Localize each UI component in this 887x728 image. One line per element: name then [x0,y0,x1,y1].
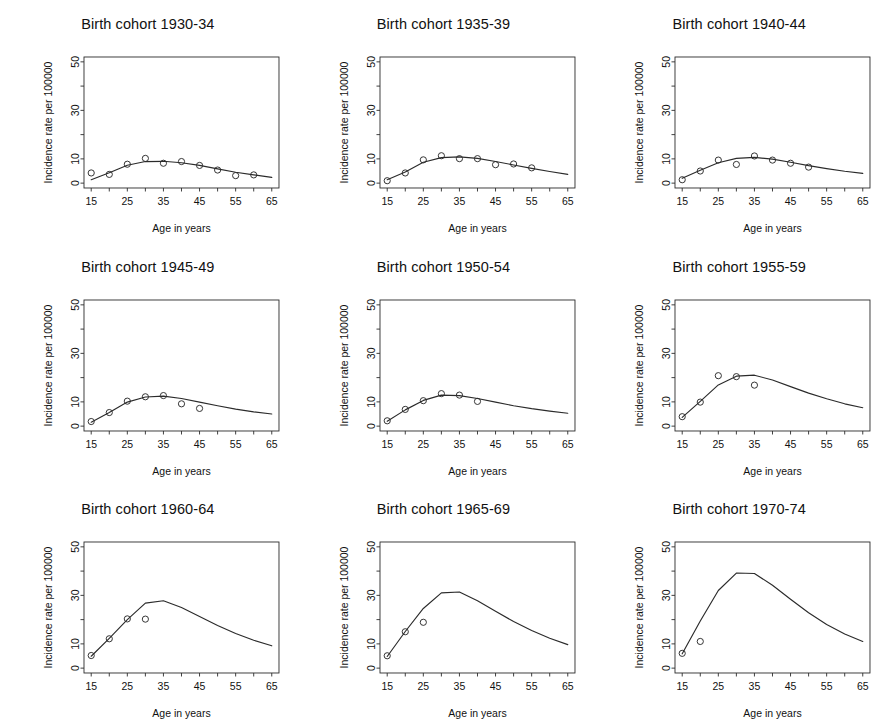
y-axis-tick-label: 10 [365,638,376,650]
x-axis-tick-label: 25 [417,439,429,450]
y-axis-tick-label: 0 [365,423,376,429]
y-axis-title: Incidence rate per 100000 [634,304,645,426]
x-axis-title: Age in years [744,466,802,477]
x-axis-tick-label: 35 [158,681,170,692]
chart-panel: Birth cohort 1935-391525354555650103050A… [296,0,592,243]
y-axis-tick-label: 50 [661,541,672,553]
fitted-curve [683,157,864,178]
x-axis-tick-label: 45 [785,196,797,207]
y-axis-title: Incidence rate per 100000 [634,547,645,669]
x-axis-tick-label: 15 [85,681,97,692]
plot-frame [380,57,575,188]
y-axis-title: Incidence rate per 100000 [634,61,645,183]
plot-area: 1525354555650103050Age in yearsIncidence… [591,0,887,243]
y-axis-tick-label: 0 [661,665,672,671]
x-axis-tick-label: 15 [677,439,689,450]
data-point [770,157,776,163]
data-point [716,372,722,378]
chart-panel: Birth cohort 1940-441525354555650103050A… [591,0,887,243]
x-axis-tick-label: 45 [489,439,501,450]
fitted-curve [91,396,272,422]
plot-frame [675,542,870,673]
x-axis-tick-label: 55 [230,439,242,450]
x-axis-tick-label: 45 [785,439,797,450]
x-axis-tick-label: 65 [266,681,278,692]
x-axis-tick-label: 25 [713,439,725,450]
y-axis-tick-label: 10 [70,396,81,408]
y-axis-tick-label: 10 [365,396,376,408]
y-axis-tick-label: 30 [70,104,81,116]
x-axis-tick-label: 45 [194,681,206,692]
fitted-curve [387,592,568,657]
x-axis-tick-label: 65 [562,196,574,207]
y-axis-tick-label: 0 [661,423,672,429]
y-axis-tick-label: 0 [70,665,81,671]
x-axis-tick-label: 55 [525,439,537,450]
x-axis-tick-label: 65 [266,439,278,450]
x-axis-tick-label: 65 [562,681,574,692]
x-axis-tick-label: 65 [857,681,869,692]
fitted-curve [387,395,568,421]
x-axis-tick-label: 25 [713,681,725,692]
x-axis-title: Age in years [152,708,210,719]
y-axis-tick-label: 50 [365,56,376,68]
x-axis-tick-label: 45 [785,681,797,692]
x-axis-tick-label: 35 [158,439,170,450]
x-axis-tick-label: 55 [821,439,833,450]
chart-panel: Birth cohort 1945-491525354555650103050A… [0,243,296,486]
x-axis-tick-label: 15 [677,196,689,207]
plot-area: 1525354555650103050Age in yearsIncidence… [296,485,592,728]
x-axis-title: Age in years [448,466,506,477]
x-axis-tick-label: 55 [525,196,537,207]
x-axis-tick-label: 55 [230,196,242,207]
data-point [142,155,148,161]
x-axis-tick-label: 35 [749,196,761,207]
x-axis-title: Age in years [744,708,802,719]
y-axis-tick-label: 0 [661,180,672,186]
panel-grid: Birth cohort 1930-341525354555650103050A… [0,0,887,728]
plot-area: 1525354555650103050Age in yearsIncidence… [296,243,592,486]
y-axis-tick-label: 10 [365,153,376,165]
x-axis-title: Age in years [448,708,506,719]
plot-area: 1525354555650103050Age in yearsIncidence… [0,485,296,728]
x-axis-tick-label: 45 [489,681,501,692]
chart-panel: Birth cohort 1950-541525354555650103050A… [296,243,592,486]
y-axis-tick-label: 30 [365,590,376,602]
x-axis-tick-label: 55 [821,681,833,692]
x-axis-tick-label: 45 [194,196,206,207]
x-axis-tick-label: 35 [749,681,761,692]
x-axis-title: Age in years [448,223,506,234]
x-axis-tick-label: 15 [381,681,393,692]
x-axis-tick-label: 25 [417,196,429,207]
x-axis-tick-label: 25 [417,681,429,692]
y-axis-tick-label: 10 [70,153,81,165]
plot-area: 1525354555650103050Age in yearsIncidence… [0,243,296,486]
y-axis-tick-label: 50 [661,299,672,311]
x-axis-title: Age in years [152,223,210,234]
y-axis-title: Incidence rate per 100000 [339,61,350,183]
data-point [178,158,184,164]
x-axis-tick-label: 15 [381,196,393,207]
y-axis-tick-label: 50 [365,541,376,553]
fitted-curve [91,161,272,179]
y-axis-tick-label: 30 [70,590,81,602]
x-axis-tick-label: 35 [453,196,465,207]
x-axis-tick-label: 45 [489,196,501,207]
plot-frame [380,300,575,431]
y-axis-tick-label: 0 [70,423,81,429]
x-axis-tick-label: 35 [749,439,761,450]
chart-panel: Birth cohort 1960-641525354555650103050A… [0,485,296,728]
plot-frame [675,300,870,431]
plot-frame [380,542,575,673]
y-axis-tick-label: 30 [70,347,81,359]
fitted-curve [91,601,272,657]
x-axis-tick-label: 15 [85,439,97,450]
plot-area: 1525354555650103050Age in yearsIncidence… [591,485,887,728]
data-point [420,620,426,626]
data-point [752,382,758,388]
x-axis-tick-label: 55 [525,681,537,692]
x-axis-tick-label: 25 [121,196,133,207]
x-axis-tick-label: 15 [85,196,97,207]
x-axis-tick-label: 25 [121,681,133,692]
y-axis-tick-label: 0 [365,665,376,671]
